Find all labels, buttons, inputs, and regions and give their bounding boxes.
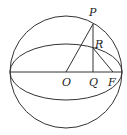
label-R: R (94, 38, 103, 51)
label-P: P (88, 6, 97, 19)
label-O: O (62, 76, 71, 89)
sphere-diagram: P R O Q F (0, 0, 127, 135)
label-F: F (107, 76, 116, 89)
segment-RF (93, 48, 113, 72)
segment-OP (66, 24, 93, 72)
label-Q: Q (89, 76, 98, 89)
